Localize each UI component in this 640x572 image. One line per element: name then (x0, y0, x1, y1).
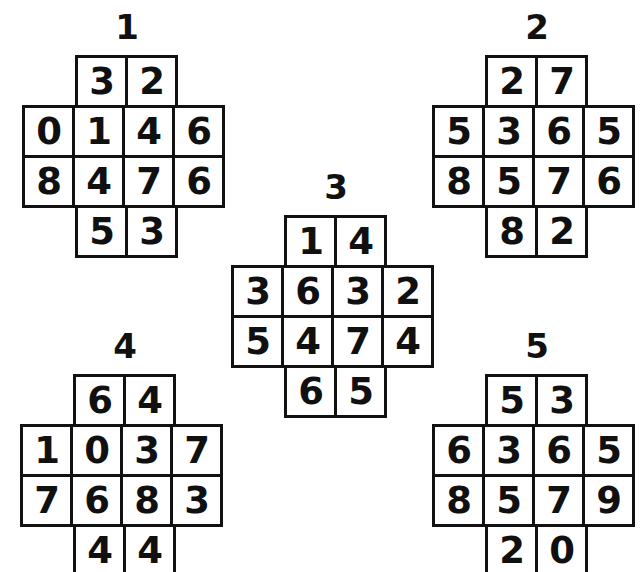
grid-cell[interactable]: 2 (485, 524, 538, 572)
grid-row: 64 (73, 374, 220, 427)
grid-row: 82 (485, 205, 632, 258)
grid-cell[interactable]: 8 (120, 474, 173, 527)
grid-cell[interactable]: 4 (123, 524, 176, 572)
grid-cell[interactable]: 6 (532, 105, 585, 158)
grid-row: 3632 (231, 265, 431, 318)
grid-cell[interactable]: 3 (125, 205, 178, 258)
grid-cell[interactable]: 7 (331, 315, 384, 368)
grid-cell[interactable]: 2 (125, 55, 178, 108)
grid-cell[interactable]: 7 (532, 474, 585, 527)
grid-cell[interactable]: 7 (532, 155, 585, 208)
grid-row: 44 (73, 524, 220, 572)
grid-row: 53 (75, 205, 222, 258)
grid-cell[interactable]: 4 (72, 155, 125, 208)
puzzle-4-grid: 641037768344 (20, 374, 220, 572)
grid-cell[interactable]: 1 (284, 215, 337, 268)
grid-row: 20 (485, 524, 632, 572)
grid-row: 5365 (432, 105, 632, 158)
grid-cell[interactable]: 4 (281, 315, 334, 368)
grid-row: 8579 (432, 474, 632, 527)
grid-cell[interactable]: 3 (120, 424, 173, 477)
grid-cell[interactable]: 3 (482, 424, 535, 477)
puzzle-sheet: 1320146847653227536585768231436325474654… (0, 0, 640, 572)
puzzle-3-grid: 143632547465 (231, 215, 431, 418)
grid-row: 53 (485, 374, 632, 427)
grid-cell[interactable]: 0 (70, 424, 123, 477)
grid-cell[interactable]: 2 (485, 55, 538, 108)
grid-row: 7683 (20, 474, 220, 527)
grid-row: 65 (284, 365, 431, 418)
puzzle-5-label: 5 (432, 327, 640, 365)
grid-row: 27 (485, 55, 632, 108)
grid-cell[interactable]: 7 (122, 155, 175, 208)
grid-cell[interactable]: 5 (75, 205, 128, 258)
grid-cell[interactable]: 3 (482, 105, 535, 158)
grid-cell[interactable]: 1 (20, 424, 73, 477)
grid-cell[interactable]: 0 (535, 524, 588, 572)
grid-cell[interactable]: 3 (535, 374, 588, 427)
grid-cell[interactable]: 6 (284, 365, 337, 418)
grid-cell[interactable]: 5 (482, 474, 535, 527)
grid-cell[interactable]: 6 (582, 155, 635, 208)
grid-cell[interactable]: 8 (485, 205, 538, 258)
puzzle-5-grid: 536365857920 (432, 374, 632, 572)
grid-cell[interactable]: 7 (170, 424, 223, 477)
grid-row: 14 (284, 215, 431, 268)
grid-row: 5474 (231, 315, 431, 368)
grid-cell[interactable]: 4 (381, 315, 434, 368)
grid-cell[interactable]: 4 (73, 524, 126, 572)
grid-row: 6365 (432, 424, 632, 477)
grid-row: 8476 (22, 155, 222, 208)
puzzle-3-label: 3 (231, 168, 440, 206)
grid-cell[interactable]: 2 (535, 205, 588, 258)
grid-cell[interactable]: 4 (122, 105, 175, 158)
grid-cell[interactable]: 6 (70, 474, 123, 527)
grid-row: 0146 (22, 105, 222, 158)
grid-cell[interactable]: 6 (73, 374, 126, 427)
grid-cell[interactable]: 5 (432, 105, 485, 158)
grid-cell[interactable]: 7 (20, 474, 73, 527)
grid-cell[interactable]: 3 (170, 474, 223, 527)
grid-cell[interactable]: 2 (381, 265, 434, 318)
grid-cell[interactable]: 4 (123, 374, 176, 427)
grid-cell[interactable]: 3 (231, 265, 284, 318)
grid-cell[interactable]: 8 (432, 474, 485, 527)
grid-cell[interactable]: 5 (334, 365, 387, 418)
puzzle-4-label: 4 (20, 327, 229, 365)
grid-row: 32 (75, 55, 222, 108)
grid-row: 8576 (432, 155, 632, 208)
grid-cell[interactable]: 5 (582, 424, 635, 477)
grid-cell[interactable]: 5 (231, 315, 284, 368)
grid-cell[interactable]: 7 (535, 55, 588, 108)
grid-cell[interactable]: 4 (334, 215, 387, 268)
puzzle-1-grid: 320146847653 (22, 55, 222, 258)
grid-cell[interactable]: 6 (172, 155, 225, 208)
puzzle-1-label: 1 (22, 8, 231, 46)
grid-cell[interactable]: 5 (485, 374, 538, 427)
puzzle-2-grid: 275365857682 (432, 55, 632, 258)
grid-cell[interactable]: 3 (331, 265, 384, 318)
grid-cell[interactable]: 6 (172, 105, 225, 158)
grid-cell[interactable]: 6 (432, 424, 485, 477)
grid-cell[interactable]: 6 (532, 424, 585, 477)
grid-cell[interactable]: 5 (482, 155, 535, 208)
grid-cell[interactable]: 1 (72, 105, 125, 158)
grid-cell[interactable]: 6 (281, 265, 334, 318)
grid-cell[interactable]: 5 (582, 105, 635, 158)
grid-cell[interactable]: 8 (22, 155, 75, 208)
grid-cell[interactable]: 9 (582, 474, 635, 527)
puzzle-2-label: 2 (432, 8, 640, 46)
grid-cell[interactable]: 0 (22, 105, 75, 158)
grid-row: 1037 (20, 424, 220, 477)
grid-cell[interactable]: 3 (75, 55, 128, 108)
